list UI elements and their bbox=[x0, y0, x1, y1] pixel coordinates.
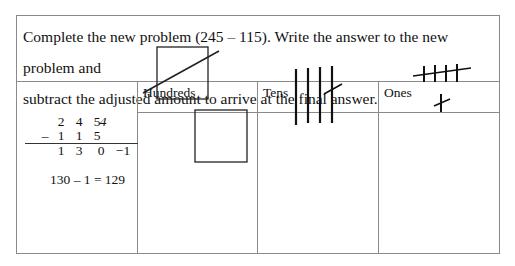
tens-sticks-icon bbox=[296, 66, 342, 125]
ones-tally-icon bbox=[413, 64, 471, 112]
hundreds-squares-icon bbox=[143, 47, 247, 162]
place-value-drawings bbox=[17, 16, 501, 255]
problem-table: Complete the new problem (245 – 115). Wr… bbox=[16, 15, 500, 254]
